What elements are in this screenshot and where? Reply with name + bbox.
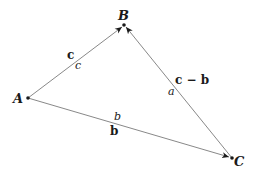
vector-label-ac: b	[110, 125, 118, 137]
length-label-cb: a	[168, 86, 175, 97]
point-label-a: A	[13, 92, 23, 105]
edge-ac	[28, 98, 229, 157]
point-label-b: B	[118, 9, 129, 22]
triangle-diagram	[0, 0, 255, 176]
edge-cb	[126, 27, 232, 158]
length-label-ab: c	[75, 60, 81, 71]
vector-label-cb: c − b	[175, 74, 209, 86]
point-label-c: C	[234, 155, 244, 168]
point-b	[122, 23, 126, 27]
point-a	[26, 96, 30, 100]
length-label-ac: b	[114, 111, 121, 122]
vector-label-ab: c	[67, 49, 74, 61]
